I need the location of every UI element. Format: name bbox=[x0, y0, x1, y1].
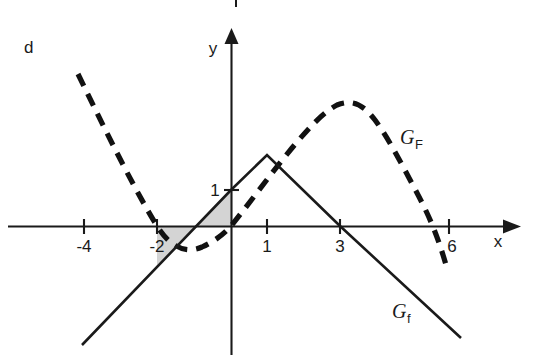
curve-label-G-F: G F bbox=[400, 126, 423, 152]
curve-label-G-F-main: G bbox=[400, 126, 415, 148]
x-tick-label--4: -4 bbox=[76, 237, 91, 256]
curve-label-G-F-sub: F bbox=[415, 137, 423, 152]
curve-label-G-f-main: G bbox=[392, 300, 407, 322]
math-figure-canvas: -4 -2 1 3 6 1 x y G F G f d bbox=[0, 0, 541, 363]
y-axis-arrow-icon bbox=[225, 28, 239, 44]
figure-page: -4 -2 1 3 6 1 x y G F G f d bbox=[0, 0, 541, 363]
curve-label-G-f-sub: f bbox=[407, 311, 411, 326]
y-tick-label-1: 1 bbox=[210, 181, 219, 200]
x-axis-arrow-icon bbox=[503, 220, 521, 234]
x-tick-label-1: 1 bbox=[262, 237, 271, 256]
x-axis-label: x bbox=[494, 232, 503, 251]
y-axis-label: y bbox=[209, 39, 218, 58]
curve-label-G-f: G f bbox=[392, 300, 411, 326]
x-tick-label-3: 3 bbox=[335, 237, 344, 256]
x-tick-label-6: 6 bbox=[447, 237, 456, 256]
panel-letter-label: d bbox=[24, 38, 33, 57]
x-tick-label--2: -2 bbox=[149, 237, 164, 256]
